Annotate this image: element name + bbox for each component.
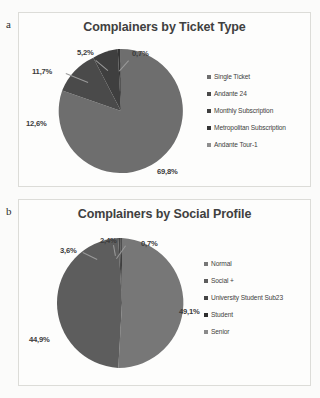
- legend-label: Senior: [211, 328, 229, 335]
- panel-letter-a: a: [6, 18, 11, 30]
- legend-label: University Student Sub23: [211, 294, 283, 301]
- legend-label: Andante 24: [214, 90, 247, 97]
- legend-swatch-icon: [204, 262, 208, 266]
- legend-item-andante-24[interactable]: Andante 24: [207, 86, 286, 101]
- legend-label: Normal: [211, 260, 232, 267]
- pie-label-44-9: 44,9%: [29, 335, 50, 344]
- legend-item-normal[interactable]: Normal: [204, 256, 283, 271]
- legend-label: Monthly Subscription: [214, 107, 273, 114]
- legend-label: Metropolitan Subscription: [214, 124, 286, 131]
- legend-item-student[interactable]: Student: [204, 307, 283, 322]
- pie-slice-social-plus: [57, 238, 122, 368]
- legend-item-social-plus[interactable]: Social +: [204, 273, 283, 288]
- pie-label-69-8: 69,8%: [157, 167, 178, 176]
- panel-letter-b: b: [6, 205, 12, 217]
- pie-chart-b: [55, 236, 189, 370]
- pie-label-5-2: 5,2%: [77, 48, 94, 57]
- legend-a: Single Ticket Andante 24 Monthly Subscri…: [207, 69, 286, 154]
- legend-label: Social +: [211, 277, 234, 284]
- pie-label-0-7-a: 0,7%: [132, 49, 149, 58]
- pie-slice-normal: [118, 238, 183, 368]
- pie-label-12-6: 12,6%: [26, 119, 47, 128]
- legend-item-senior[interactable]: Senior: [204, 324, 283, 339]
- legend-item-andante-tour-1[interactable]: Andante Tour-1: [207, 137, 286, 152]
- legend-swatch-icon: [207, 92, 211, 96]
- pie-b-svg: [55, 236, 189, 370]
- legend-label: Student: [211, 311, 233, 318]
- chart-body-a: 69,8% 12,6% 11,7% 5,2% 0,7% Single Ticke…: [19, 35, 310, 184]
- legend-swatch-icon: [207, 75, 211, 79]
- legend-label: Andante Tour-1: [214, 141, 258, 148]
- chart-panel-a: Complainers by Ticket Type: [18, 12, 311, 187]
- legend-b: Normal Social + University Student Sub23…: [204, 256, 283, 341]
- legend-item-monthly-subscription[interactable]: Monthly Subscription: [207, 103, 286, 118]
- legend-swatch-icon: [207, 126, 211, 130]
- legend-swatch-icon: [204, 330, 208, 334]
- pie-label-0-7-b: 0,7%: [141, 239, 158, 248]
- legend-swatch-icon: [204, 296, 208, 300]
- pie-label-49-1: 49,1%: [179, 307, 200, 316]
- chart-title-a: Complainers by Ticket Type: [19, 20, 310, 35]
- legend-label: Single Ticket: [214, 73, 250, 80]
- pie-chart-a: [57, 47, 185, 175]
- chart-panel-b: Complainers by Social Profile: [18, 199, 311, 386]
- legend-swatch-icon: [207, 109, 211, 113]
- chart-title-b: Complainers by Social Profile: [19, 207, 310, 222]
- pie-a-svg: [57, 47, 185, 175]
- chart-body-b: 49,1% 44,9% 3,6% 2,4% 0,7% Normal Social…: [19, 222, 310, 383]
- legend-swatch-icon: [204, 313, 208, 317]
- legend-swatch-icon: [204, 279, 208, 283]
- pie-label-2-4: 2,4%: [100, 236, 117, 245]
- pie-label-3-6: 3,6%: [60, 246, 77, 255]
- legend-swatch-icon: [207, 143, 211, 147]
- legend-item-university-student-sub23[interactable]: University Student Sub23: [204, 290, 283, 305]
- pie-label-11-7: 11,7%: [32, 67, 52, 76]
- legend-item-metropolitan-subscription[interactable]: Metropolitan Subscription: [207, 120, 286, 135]
- legend-item-single-ticket[interactable]: Single Ticket: [207, 69, 286, 84]
- figure-canvas: a Complainers by Ticket Type: [0, 0, 320, 398]
